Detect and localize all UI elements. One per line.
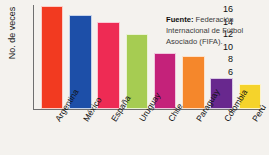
y-axis-title: No. de veces — [7, 0, 17, 73]
bar-espaa — [97, 22, 120, 110]
source-label: Fuente: — [166, 15, 193, 24]
bar-argentina — [41, 6, 64, 109]
bar-paraguay — [182, 56, 205, 109]
chart-figure: No. de veces 1614121086420 ArgentinaMéxi… — [0, 0, 269, 155]
y-axis-line — [33, 5, 34, 110]
source-note: Fuente: Federación Internacional de Fútb… — [166, 14, 266, 47]
